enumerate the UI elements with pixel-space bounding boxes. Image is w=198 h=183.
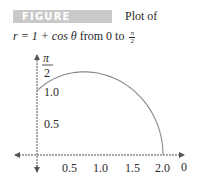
y-axis-label-den: 2 <box>44 66 50 80</box>
polar-plot: 1.0 0.5 0.5 1.0 1.5 2.0 0 π 2 <box>0 0 198 183</box>
x-tick-2: 2.0 <box>155 161 170 175</box>
x-tick-1-5: 1.5 <box>125 161 140 175</box>
x-axis-label: 0 <box>181 160 187 174</box>
x-tick-1: 1.0 <box>93 161 108 175</box>
y-axis-label-num: π <box>43 51 50 65</box>
y-tick-0-5: 0.5 <box>44 117 59 131</box>
y-tick-1: 1.0 <box>44 85 59 99</box>
x-tick-0-5: 0.5 <box>62 161 77 175</box>
